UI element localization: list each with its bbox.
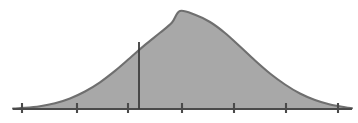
bell-curve-svg	[0, 0, 358, 123]
bell-curve-chart	[0, 0, 358, 123]
